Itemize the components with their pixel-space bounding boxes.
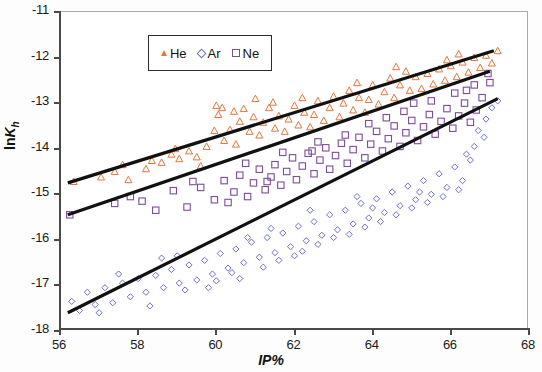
data-point — [441, 77, 448, 83]
x-tick-label: 62 — [287, 337, 301, 352]
data-point — [184, 204, 190, 210]
data-point — [397, 81, 404, 87]
y-tick-label: -18 — [31, 321, 49, 336]
data-point — [416, 189, 422, 195]
data-point — [428, 98, 434, 104]
data-point — [233, 246, 239, 252]
data-point — [260, 264, 266, 270]
data-point — [268, 174, 274, 180]
data-point — [303, 238, 309, 244]
data-point — [209, 271, 215, 277]
data-point — [186, 262, 192, 268]
data-point — [428, 191, 434, 197]
data-point — [373, 196, 379, 202]
data-point — [456, 187, 462, 193]
triangle-marker-icon — [161, 50, 167, 56]
data-point — [393, 63, 400, 69]
data-point — [305, 150, 311, 156]
data-point — [362, 224, 368, 230]
data-point — [356, 134, 362, 140]
data-point — [340, 100, 347, 106]
data-point — [237, 275, 243, 281]
data-point — [444, 184, 450, 190]
y-tick-label: -11 — [32, 2, 49, 17]
series-group — [67, 47, 502, 316]
data-point — [346, 87, 353, 93]
data-point — [330, 234, 336, 240]
data-point — [326, 166, 332, 172]
data-point — [483, 116, 489, 122]
data-point — [256, 254, 262, 260]
data-point — [383, 115, 389, 121]
data-point — [311, 171, 317, 177]
data-point — [293, 177, 299, 183]
data-point — [307, 207, 313, 213]
data-point — [92, 301, 98, 307]
data-point — [287, 244, 293, 250]
data-point — [194, 277, 200, 283]
data-point — [256, 132, 263, 138]
data-point — [350, 146, 356, 152]
data-point — [217, 250, 223, 256]
data-point — [221, 177, 227, 183]
data-point — [479, 94, 485, 100]
data-point — [440, 193, 446, 199]
data-point — [295, 223, 301, 229]
data-point — [96, 310, 102, 316]
trendline-ne — [68, 71, 490, 215]
x-tick-label: 64 — [365, 337, 379, 352]
data-point — [354, 193, 360, 199]
data-point — [375, 101, 382, 107]
data-point — [291, 102, 298, 108]
data-point — [241, 260, 247, 266]
data-point — [311, 219, 317, 225]
y-tick-label: -12 — [31, 48, 49, 63]
data-point — [315, 139, 321, 145]
data-layer — [60, 12, 529, 331]
data-point — [242, 160, 248, 166]
data-point — [402, 68, 409, 74]
x-axis-title: IP% — [0, 352, 542, 368]
data-point — [350, 106, 357, 112]
data-point — [370, 205, 376, 211]
data-point — [481, 134, 487, 140]
legend: He Ar Ne — [148, 35, 272, 71]
data-point — [127, 294, 133, 300]
data-point — [84, 289, 90, 295]
data-point — [311, 111, 318, 117]
data-point — [467, 157, 473, 163]
data-point — [366, 120, 372, 126]
data-point — [465, 69, 472, 75]
data-point — [230, 108, 237, 114]
data-point — [256, 166, 262, 172]
legend-item-ar: Ar — [198, 47, 221, 60]
data-point — [459, 178, 465, 184]
data-point — [281, 128, 288, 134]
data-point — [272, 161, 278, 167]
data-point — [276, 257, 282, 263]
data-point — [69, 298, 75, 304]
data-point — [278, 182, 284, 188]
data-point — [430, 81, 437, 87]
data-point — [245, 234, 251, 240]
data-point — [268, 225, 274, 231]
y-axis-title-subscript: h — [10, 121, 21, 127]
data-point — [365, 96, 372, 102]
data-point — [358, 200, 364, 206]
data-point — [323, 145, 329, 151]
data-point — [342, 207, 348, 213]
data-point — [289, 155, 295, 161]
data-point — [213, 102, 220, 108]
data-point — [264, 178, 270, 184]
data-point — [334, 227, 340, 233]
y-tick-label: -15 — [31, 184, 49, 199]
y-tick-label: -16 — [31, 230, 49, 245]
data-point — [489, 105, 495, 111]
data-point — [320, 117, 327, 123]
data-point — [211, 197, 217, 203]
data-point — [326, 104, 333, 110]
data-point — [471, 82, 477, 88]
data-point — [198, 184, 204, 190]
data-point — [403, 130, 409, 136]
data-point — [307, 123, 314, 129]
